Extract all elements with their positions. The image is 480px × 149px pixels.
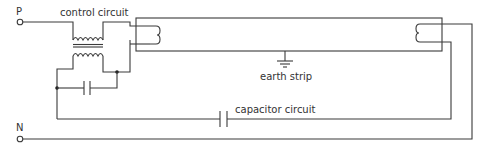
transformer-primary-coil [73,38,103,41]
capacitor-circuit-label: capacitor circuit [235,104,315,115]
circuit-diagram: P N control circuit capacitor circuit ea… [0,0,480,149]
neutral-terminal [17,136,23,142]
right-filament [416,24,437,42]
primary-output-wire [103,22,150,40]
phase-terminal-label: P [16,6,22,17]
cap-right-wire [90,72,117,88]
earth-strip-label: earth strip [260,71,312,82]
secondary-right-wire [103,40,130,72]
phase-terminal [17,19,23,25]
left-filament [150,26,160,44]
transformer-secondary-coil [73,54,103,57]
neutral-terminal-label: N [16,122,23,133]
phase-wire [23,22,73,40]
control-circuit-label: control circuit [60,7,129,18]
fluorescent-tube [136,18,442,51]
